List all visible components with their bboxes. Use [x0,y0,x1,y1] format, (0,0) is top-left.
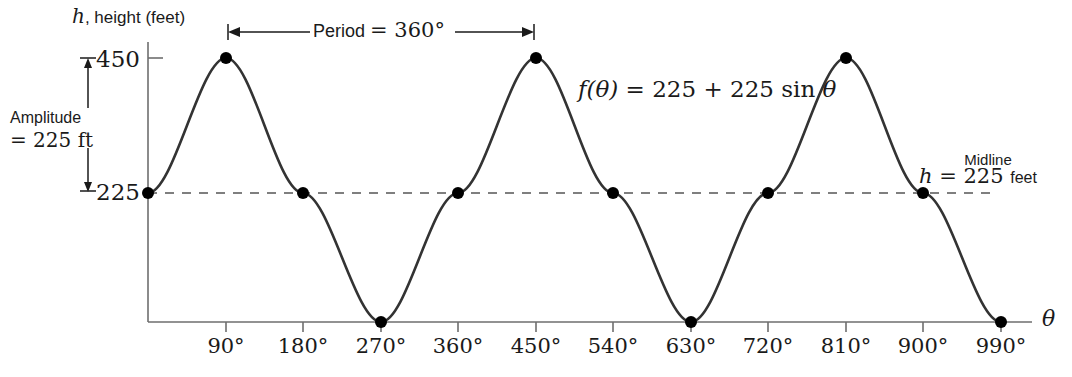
y-axis-title: h, height (feet) [72,6,185,26]
midline-value: = 225 [933,164,1011,188]
midline-equation: h = 225 feet [919,166,1037,187]
y-axis-title-rest: , height (feet) [85,8,185,27]
x-tick-label-900: 900° [898,336,949,357]
equation-f: f [578,76,587,102]
x-tick-label-990: 990° [976,336,1027,357]
amplitude-annotation: Amplitude = 225 ft [10,108,93,153]
function-equation: f(θ) = 225 + 225 sin θ [578,78,836,101]
graph-svg [0,0,1072,377]
y-tick-label-225: 225 [96,181,140,204]
x-axis-label-theta: θ [1042,308,1055,330]
midline-unit: feet [1010,169,1037,186]
equation-body: = 225 + 225 [618,76,781,102]
x-tick-label-720: 720° [743,336,794,357]
equation-sin: sin [781,76,815,102]
x-tick-label-540: 540° [588,336,639,357]
x-tick-label-450: 450° [511,336,562,357]
period-value: = 360° [370,18,445,42]
x-tick-label-180: 180° [278,336,329,357]
x-tick-label-630: 630° [666,336,717,357]
midline-variable: h [919,164,933,188]
amplitude-line-2: = 225 ft [10,128,93,153]
equation-arg: (θ) [587,76,619,102]
x-tick-marks [226,322,1001,332]
curve-points [142,52,1007,328]
equation-theta: θ [815,76,836,102]
amplitude-line-1: Amplitude [10,108,93,128]
x-tick-label-810: 810° [821,336,872,357]
sine-curve [148,58,1001,322]
x-tick-label-270: 270° [356,336,407,357]
y-axis-variable: h [72,4,85,28]
period-label: Period [313,21,370,41]
period-annotation: Period = 360° [313,20,445,41]
x-tick-label-90: 90° [207,336,244,357]
y-tick-label-450: 450 [96,48,140,71]
x-tick-label-360: 360° [433,336,484,357]
figure-canvas: h, height (feet) 450 225 Amplitude = 225… [0,0,1072,377]
